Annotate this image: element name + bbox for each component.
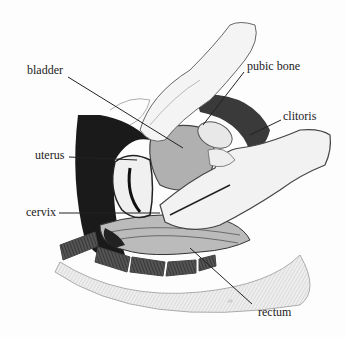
pelvis-illustration: sig [0,0,346,337]
uterus-tissue [113,155,153,217]
label-uterus: uterus [35,148,64,162]
label-clitoris: clitoris [283,109,316,123]
label-bladder: bladder [27,63,63,77]
label-pubic-bone: pubic bone [247,59,300,73]
label-cervix: cervix [26,205,56,219]
anatomy-diagram: sig bladder pubic bone clitoris uterus c… [0,0,346,337]
label-rectum: rectum [258,305,291,319]
